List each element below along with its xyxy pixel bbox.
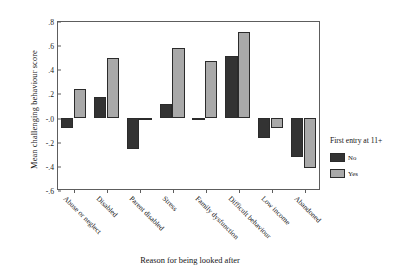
bar-yes-2 bbox=[139, 118, 151, 120]
x-tick-mark bbox=[305, 189, 306, 193]
x-tick-mark bbox=[140, 189, 141, 193]
bar-no-0 bbox=[61, 118, 73, 129]
y-tick-mark bbox=[58, 166, 61, 167]
bar-yes-4 bbox=[205, 61, 217, 118]
y-tick-label: .4 bbox=[48, 66, 54, 75]
chart-figure: Mean challenging behaviour score .8.6.4.… bbox=[0, 0, 413, 277]
y-tick-mark bbox=[58, 22, 61, 23]
y-tick-mark bbox=[58, 46, 61, 47]
bar-no-2 bbox=[127, 118, 139, 149]
y-tick-label: -.4 bbox=[46, 162, 54, 171]
x-tick-mark bbox=[173, 189, 174, 193]
y-tick-mark bbox=[58, 94, 61, 95]
legend: First entry at 11+ NoYes bbox=[330, 136, 412, 185]
x-category-label: Stress bbox=[161, 194, 180, 213]
x-axis-title: Reason for being looked after bbox=[0, 256, 380, 265]
y-tick-label: .2 bbox=[48, 90, 54, 99]
x-category-label: Low income bbox=[259, 194, 292, 227]
legend-swatch bbox=[330, 153, 345, 162]
y-tick-mark bbox=[58, 70, 61, 71]
legend-title: First entry at 11+ bbox=[330, 136, 412, 145]
y-tick-label: -.6 bbox=[46, 187, 54, 196]
bar-yes-5 bbox=[238, 32, 250, 118]
legend-swatch bbox=[330, 169, 345, 178]
x-category-label: Disabled bbox=[95, 194, 120, 219]
y-tick-label: .8 bbox=[48, 18, 54, 27]
legend-label: No bbox=[348, 154, 356, 161]
x-tick-mark bbox=[107, 189, 108, 193]
y-tick-mark bbox=[58, 142, 61, 143]
bar-no-6 bbox=[258, 118, 270, 139]
legend-label: Yes bbox=[348, 170, 358, 177]
y-tick-label: .6 bbox=[48, 42, 54, 51]
bar-no-7 bbox=[291, 118, 303, 158]
bar-no-5 bbox=[225, 56, 237, 118]
legend-item-yes: Yes bbox=[330, 169, 412, 178]
bar-yes-0 bbox=[74, 89, 86, 118]
y-tick-label: -.0 bbox=[46, 114, 54, 123]
y-axis-title: Mean challenging behaviour score bbox=[30, 10, 39, 210]
x-tick-mark bbox=[206, 189, 207, 193]
bar-yes-7 bbox=[304, 118, 316, 169]
x-tick-mark bbox=[272, 189, 273, 193]
bar-yes-1 bbox=[107, 58, 119, 117]
x-tick-mark bbox=[74, 189, 75, 193]
y-tick-label: -.2 bbox=[46, 138, 54, 147]
y-tick-mark bbox=[58, 191, 61, 192]
legend-entries: NoYes bbox=[330, 153, 412, 178]
bar-yes-6 bbox=[271, 118, 283, 129]
legend-item-no: No bbox=[330, 153, 412, 162]
bar-no-3 bbox=[160, 104, 172, 117]
bar-no-4 bbox=[192, 118, 204, 120]
bar-yes-3 bbox=[172, 48, 184, 118]
x-tick-mark bbox=[239, 189, 240, 193]
bar-no-1 bbox=[94, 97, 106, 118]
x-category-label: Abandoned bbox=[292, 194, 322, 224]
